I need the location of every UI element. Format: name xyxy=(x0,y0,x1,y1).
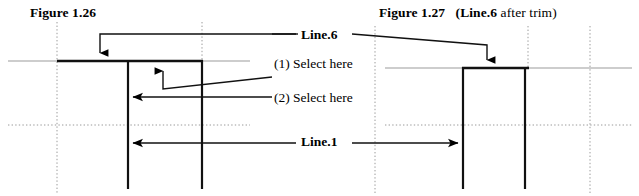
leader-line6-right xyxy=(352,34,487,60)
label-select-here-1: (1) Select here xyxy=(274,56,353,72)
label-select-here-2: (2) Select here xyxy=(274,90,353,106)
figure-caption-right: Figure 1.27 (Line.6 after trim) xyxy=(379,5,557,21)
leader-line6-left xyxy=(100,34,296,53)
right-panel-leaders xyxy=(352,34,487,143)
label-line6: Line.6 xyxy=(301,27,337,43)
figure-caption-right-suffix: after trim) xyxy=(497,5,557,20)
leader-select1-left xyxy=(163,71,272,89)
left-panel-leaders xyxy=(100,34,298,143)
figure-caption-left-text: Figure 1.26 xyxy=(30,5,96,20)
figure-page: Figure 1.26 Figure 1.27 (Line.6 after tr… xyxy=(0,0,639,196)
label-line1: Line.1 xyxy=(301,134,337,150)
figure-caption-right-number: Figure 1.27 xyxy=(379,5,445,20)
right-panel-geometry xyxy=(385,67,632,189)
right-panel-guides xyxy=(375,26,632,193)
figure-caption-left: Figure 1.26 xyxy=(30,5,96,21)
figure-caption-right-linename: Line.6 xyxy=(460,5,497,20)
